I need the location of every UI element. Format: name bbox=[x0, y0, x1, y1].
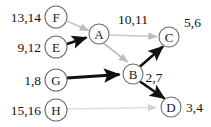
node-B: B bbox=[123, 64, 143, 84]
node-A: A bbox=[89, 24, 109, 44]
node-E: E bbox=[45, 36, 67, 58]
node-C: C bbox=[159, 27, 179, 47]
edge-A-C bbox=[110, 35, 158, 37]
node-label-C: C bbox=[165, 30, 174, 45]
edges-layer bbox=[67, 21, 165, 109]
time-label-D: 3,4 bbox=[186, 100, 203, 115]
node-label-E: E bbox=[52, 40, 60, 55]
node-D: D bbox=[161, 97, 181, 117]
node-H: H bbox=[45, 99, 67, 121]
edge-label-A-C: 10,11 bbox=[118, 12, 148, 27]
time-label-H: 15,16 bbox=[11, 103, 42, 118]
node-label-A: A bbox=[94, 27, 104, 42]
edge-F-A bbox=[67, 21, 89, 31]
time-label-C: 5,6 bbox=[184, 15, 201, 30]
node-G: G bbox=[45, 69, 67, 91]
graph-diagram: F E G H A B C bbox=[0, 0, 211, 127]
nodes-layer: F E G H A B C bbox=[45, 6, 181, 121]
node-label-H: H bbox=[51, 103, 60, 118]
edge-A-B bbox=[104, 44, 128, 63]
node-label-F: F bbox=[52, 10, 59, 25]
node-label-B: B bbox=[129, 67, 138, 82]
node-F: F bbox=[45, 6, 67, 28]
edge-B-C bbox=[140, 47, 163, 67]
node-label-D: D bbox=[166, 100, 175, 115]
edge-G-B bbox=[67, 75, 120, 79]
graph-canvas: F E G H A B C bbox=[0, 0, 211, 127]
edge-label-B-C: 2,7 bbox=[146, 70, 163, 85]
time-label-F: 13,14 bbox=[11, 10, 42, 25]
edge-H-D bbox=[67, 108, 156, 110]
time-label-G: 1,8 bbox=[24, 73, 41, 88]
node-label-G: G bbox=[51, 73, 60, 88]
time-label-E: 9,12 bbox=[17, 40, 41, 55]
edge-E-A bbox=[67, 38, 87, 45]
